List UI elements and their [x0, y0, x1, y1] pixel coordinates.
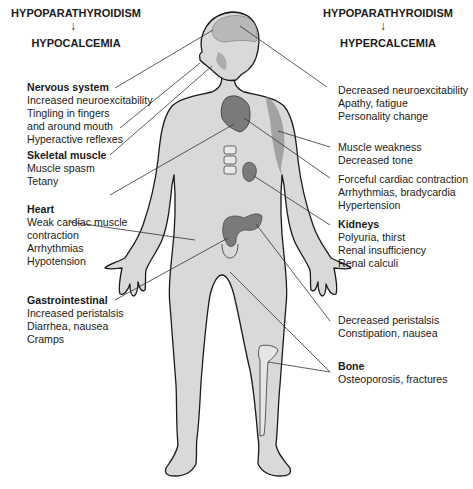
- block-title: Nervous system: [27, 81, 152, 94]
- kidneys-hypercalcemia: Kidneys Polyuria, thirst Renal insuffici…: [338, 218, 426, 270]
- block-title: Kidneys: [338, 218, 426, 231]
- block-title: Heart: [27, 203, 127, 216]
- block-line: and around mouth: [27, 120, 152, 133]
- block-line: Constipation, nausea: [338, 327, 439, 340]
- block-line: Forceful cardiac contraction: [338, 173, 468, 186]
- block-line: Renal calculi: [338, 257, 426, 270]
- block-title: Bone: [338, 360, 448, 373]
- block-line: Increased neuroexcitability: [27, 94, 152, 107]
- gastrointestinal-hypocalcemia: Gastrointestinal Increased peristalsis D…: [27, 294, 124, 346]
- block-line: Decreased peristalsis: [338, 314, 439, 327]
- nervous-system-hypocalcemia: Nervous system Increased neuroexcitabili…: [27, 81, 152, 146]
- block-line: Osteoporosis, fractures: [338, 373, 448, 386]
- block-title: Skeletal muscle: [27, 149, 107, 162]
- block-title: Gastrointestinal: [27, 294, 124, 307]
- block-line: Decreased neuroexcitability: [338, 84, 468, 97]
- block-line: Arrhythmias: [27, 242, 127, 255]
- block-line: Tetany: [27, 175, 107, 188]
- block-line: Tingling in fingers: [27, 107, 152, 120]
- block-line: Arrhythmias, bradycardia: [338, 186, 468, 199]
- skeletal-muscle-hypercalcemia: Muscle weakness Decreased tone: [338, 141, 422, 167]
- left-header-effect: HYPOCALCEMIA: [6, 37, 146, 49]
- bone-hypercalcemia: Bone Osteoporosis, fractures: [338, 360, 448, 386]
- block-line: Muscle weakness: [338, 141, 422, 154]
- block-line: contraction: [27, 229, 127, 242]
- block-line: Hypotension: [27, 255, 127, 268]
- block-line: Diarrhea, nausea: [27, 320, 124, 333]
- nervous-system-hypercalcemia: Decreased neuroexcitability Apathy, fati…: [338, 84, 468, 123]
- right-header-effect: HYPERCALCEMIA: [318, 37, 458, 49]
- heart-hypocalcemia: Heart Weak cardiac muscle contraction Ar…: [27, 203, 127, 268]
- block-line: Cramps: [27, 333, 124, 346]
- vertebrae: [224, 146, 236, 174]
- block-line: Apathy, fatigue: [338, 97, 468, 110]
- block-line: Muscle spasm: [27, 162, 107, 175]
- block-line: Increased peristalsis: [27, 307, 124, 320]
- block-line: Polyuria, thirst: [338, 231, 426, 244]
- block-line: Renal insufficiency: [338, 244, 426, 257]
- right-header-cause: HYPOPARATHYROIDISM: [318, 7, 458, 19]
- skeletal-muscle-hypocalcemia: Skeletal muscle Muscle spasm Tetany: [27, 149, 107, 188]
- heart-hypercalcemia: Forceful cardiac contraction Arrhythmias…: [338, 173, 468, 212]
- kidney-organ: [243, 162, 257, 181]
- block-line: Hyperactive reflexes: [27, 133, 152, 146]
- block-line: Weak cardiac muscle: [27, 216, 127, 229]
- block-line: Hypertension: [338, 199, 468, 212]
- gastrointestinal-hypercalcemia: Decreased peristalsis Constipation, naus…: [338, 314, 439, 340]
- block-line: Personality change: [338, 110, 468, 123]
- left-header-arrow: ↓: [70, 20, 76, 32]
- block-line: Decreased tone: [338, 154, 422, 167]
- right-header-arrow: ↓: [380, 20, 386, 32]
- left-header-cause: HYPOPARATHYROIDISM: [6, 7, 146, 19]
